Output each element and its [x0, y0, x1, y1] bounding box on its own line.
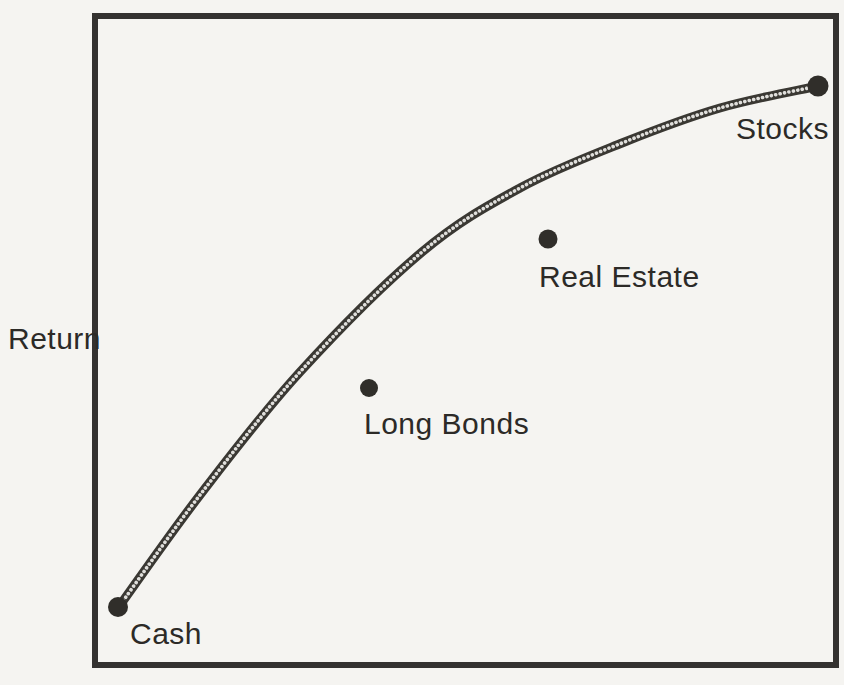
y-axis-label: Return: [8, 322, 101, 355]
data-points-layer: [108, 76, 829, 618]
data-point-label-stocks: Stocks: [736, 112, 829, 145]
plot-frame: [95, 16, 836, 665]
efficient-frontier-chart: Return CashLong BondsReal EstateStocks: [0, 0, 844, 685]
data-point-labels-layer: CashLong BondsReal EstateStocks: [130, 112, 829, 650]
data-point-label-long-bonds: Long Bonds: [364, 407, 529, 440]
data-point-label-real-estate: Real Estate: [539, 260, 700, 293]
efficient-frontier-curve: [118, 86, 818, 608]
data-point-stocks: [808, 76, 829, 97]
efficient-frontier-curve-bead-texture: [118, 86, 818, 608]
data-point-real-estate: [539, 230, 558, 249]
data-point-long-bonds: [360, 379, 378, 397]
scanned-figure-page: Return CashLong BondsReal EstateStocks: [0, 0, 844, 685]
data-point-cash: [108, 597, 128, 617]
data-point-label-cash: Cash: [130, 617, 202, 650]
